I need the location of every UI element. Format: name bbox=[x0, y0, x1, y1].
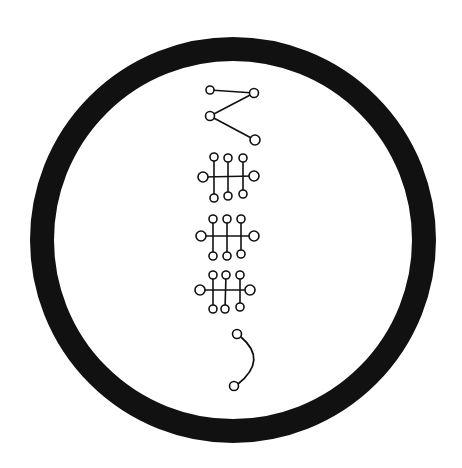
glyph-node-circle bbox=[223, 215, 231, 223]
glyph-node-circle bbox=[239, 154, 247, 162]
glyph-node-circle bbox=[209, 215, 217, 223]
glyph-stroke bbox=[225, 275, 226, 309]
seal-diagram bbox=[0, 0, 462, 468]
glyph-node-circle bbox=[206, 86, 214, 94]
glyph-node-circle bbox=[210, 194, 218, 202]
glyph-node-circle bbox=[237, 250, 245, 258]
glyph-node-circle bbox=[249, 171, 259, 181]
glyph-node-circle bbox=[236, 303, 244, 311]
glyph-node-circle bbox=[209, 271, 217, 279]
glyph-node-circle bbox=[195, 285, 205, 295]
background bbox=[0, 0, 462, 468]
glyph-node-circle bbox=[233, 330, 242, 339]
glyph-node-circle bbox=[209, 252, 217, 260]
glyph-node-circle bbox=[230, 382, 239, 391]
glyph-node-circle bbox=[239, 190, 247, 198]
glyph-node-circle bbox=[222, 271, 230, 279]
glyph-node-circle bbox=[250, 135, 260, 145]
glyph-node-circle bbox=[249, 231, 259, 241]
glyph-node-circle bbox=[196, 231, 206, 241]
glyph-node-circle bbox=[206, 112, 215, 121]
glyph-node-circle bbox=[198, 172, 208, 182]
glyph-node-circle bbox=[237, 215, 245, 223]
glyph-node-circle bbox=[224, 192, 232, 200]
glyph-node-circle bbox=[221, 305, 229, 313]
glyph-node-circle bbox=[223, 252, 231, 260]
glyph-node-circle bbox=[250, 89, 259, 98]
glyph-node-circle bbox=[209, 305, 217, 313]
glyph-node-circle bbox=[245, 285, 255, 295]
glyph-node-circle bbox=[236, 271, 244, 279]
glyph-node-circle bbox=[210, 153, 218, 161]
glyph-node-circle bbox=[224, 154, 232, 162]
